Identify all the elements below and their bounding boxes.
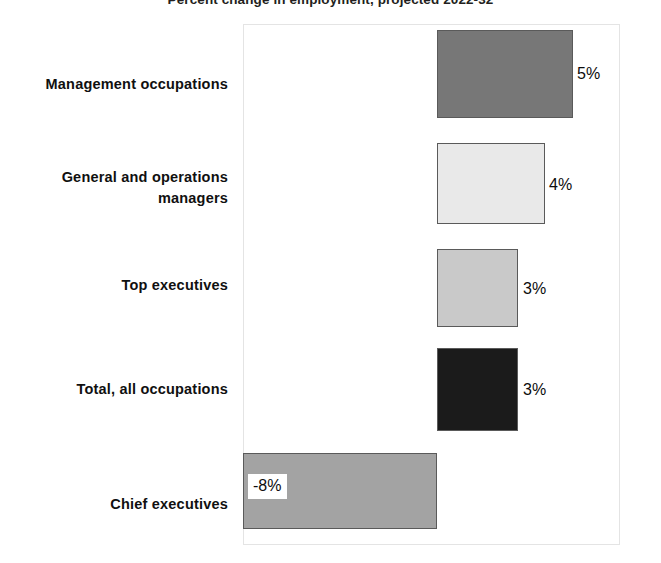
- category-label-top-executives: Top executives: [0, 275, 228, 296]
- category-label-line: Total, all occupations: [76, 381, 228, 397]
- bar-value-general-and-operations-managers: 4%: [549, 176, 572, 194]
- category-label-general-and-operations-managers: General and operations managers: [0, 167, 228, 209]
- category-axis-labels: Management occupations General and opera…: [0, 24, 228, 545]
- bar-chart: Percent change in employment, projected …: [0, 0, 661, 563]
- category-label-line: General and operations: [62, 169, 228, 185]
- bar-value-chief-executives: -8%: [248, 474, 287, 499]
- bar-value-management-occupations: 5%: [577, 65, 600, 83]
- category-label-line: Management occupations: [46, 76, 228, 92]
- bar-top-executives[interactable]: [437, 249, 518, 327]
- category-label-management-occupations: Management occupations: [0, 74, 228, 95]
- bar-management-occupations[interactable]: [437, 30, 573, 118]
- category-label-line: Top executives: [122, 277, 229, 293]
- bar-total-all-occupations[interactable]: [437, 348, 518, 431]
- bar-value-top-executives: 3%: [523, 280, 546, 298]
- chart-title: Percent change in employment, projected …: [0, 0, 661, 9]
- bar-value-total-all-occupations: 3%: [523, 381, 546, 399]
- bar-general-and-operations-managers[interactable]: [437, 143, 545, 224]
- category-label-total-all-occupations: Total, all occupations: [0, 379, 228, 400]
- category-label-line: managers: [158, 190, 228, 206]
- bars-layer: 5% 4% 3% 3% -8%: [243, 24, 620, 545]
- category-label-line: Chief executives: [110, 496, 228, 512]
- category-label-chief-executives: Chief executives: [0, 494, 228, 515]
